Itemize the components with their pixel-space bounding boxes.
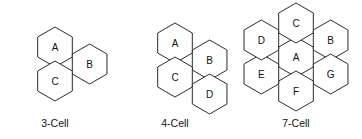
hex-cell-label-b: B [327,35,334,46]
hex-cell-label-d: D [206,89,213,100]
hexagon-canvas: ABC3-CellABCD4-CellACBGFED7-Cell [0,0,362,139]
hex-cell-label-a: A [293,52,300,63]
cluster-7-cell: ACBGFED7-Cell [244,3,348,129]
cluster-3-cell-caption: 3-Cell [41,117,68,129]
hex-cell-label-b: B [206,55,213,66]
hex-cell-label-c: C [171,72,178,83]
hex-cell-label-b: B [86,59,93,70]
cluster-7-cell-caption: 7-Cell [282,117,309,129]
hex-cell-label-a: A [172,38,179,49]
hex-cell-label-e: E [258,69,265,80]
hex-cell-label-c: C [51,76,58,87]
cluster-4-cell: ABCD4-Cell [158,23,227,129]
cluster-4-cell-caption: 4-Cell [161,117,188,129]
cluster-3-cell: ABC3-Cell [38,27,107,129]
cell-cluster-figure: ABC3-CellABCD4-CellACBGFED7-Cell [0,0,362,139]
hex-cell-label-f: F [293,86,299,97]
hex-cell-label-c: C [292,18,299,29]
hex-cell-label-d: D [258,35,265,46]
clusters-root: ABC3-CellABCD4-CellACBGFED7-Cell [38,3,348,129]
hex-cell-label-g: G [327,69,335,80]
hex-cell-label-a: A [52,42,59,53]
